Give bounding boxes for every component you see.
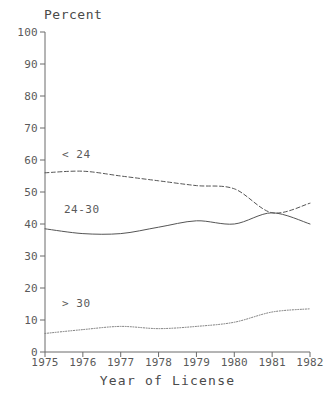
y-tick-label: 100 — [8, 26, 38, 39]
y-tick-label: 30 — [8, 250, 38, 263]
y-tick-label: 50 — [8, 186, 38, 199]
series-line — [45, 213, 310, 234]
y-tick-label: 60 — [8, 154, 38, 167]
x-tick-label: 1978 — [139, 356, 179, 369]
x-tick-label: 1976 — [63, 356, 103, 369]
y-tick-label: 90 — [8, 58, 38, 71]
x-tick-label: 1977 — [101, 356, 141, 369]
series-label: 24-30 — [64, 203, 100, 216]
y-tick-label: 20 — [8, 282, 38, 295]
series-line — [45, 309, 310, 334]
x-axis-title: Year of License — [0, 373, 335, 388]
x-tick-label: 1981 — [252, 356, 292, 369]
x-tick-label: 1975 — [25, 356, 65, 369]
y-tick-label: 80 — [8, 90, 38, 103]
x-tick-label: 1982 — [290, 356, 330, 369]
x-tick-label: 1979 — [176, 356, 216, 369]
x-tick-label: 1980 — [214, 356, 254, 369]
plot-area — [0, 0, 335, 402]
y-tick-label: 40 — [8, 218, 38, 231]
y-tick-label: 70 — [8, 122, 38, 135]
y-tick-label: 10 — [8, 314, 38, 327]
series-label: < 24 — [62, 148, 91, 161]
series-label: > 30 — [62, 297, 91, 310]
chart-figure: Percent 0102030405060708090100 197519761… — [0, 0, 335, 402]
